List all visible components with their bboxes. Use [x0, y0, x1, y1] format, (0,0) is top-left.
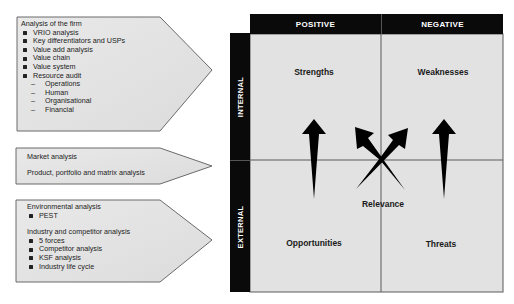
relevance-label: Relevance [362, 199, 404, 209]
cell-strengths: Strengths [294, 67, 334, 77]
cell-weaknesses: Weaknesses [418, 67, 469, 77]
row-header-divider [230, 160, 250, 161]
cell-opportunities: Opportunities [286, 238, 342, 248]
header-divider [381, 14, 382, 34]
row-header-internal: INTERNAL [230, 33, 250, 160]
cell-threats: Threats [426, 239, 457, 249]
column-header-positive: POSITIVE [250, 14, 381, 34]
row-header-external: EXTERNAL [230, 161, 250, 292]
column-header-negative: NEGATIVE [382, 14, 503, 34]
swot-matrix [0, 0, 514, 304]
